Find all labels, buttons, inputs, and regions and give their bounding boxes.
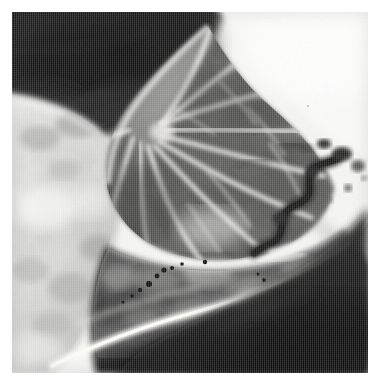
figure-root: Specimen radiograph (0, 0, 376, 385)
film-grain-layer (12, 12, 368, 373)
specimen-photograph (12, 12, 368, 373)
specimen-image-canvas (12, 12, 368, 373)
